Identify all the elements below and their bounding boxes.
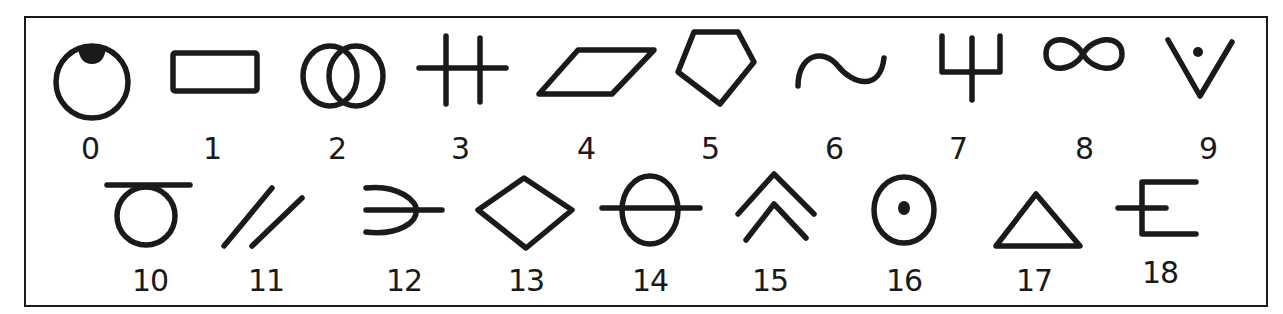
symbol-label-18: 18: [1142, 258, 1178, 288]
symbol-label-10: 10: [132, 266, 168, 296]
circle-with-top-bar-icon: [104, 180, 194, 252]
pentagon-icon: [674, 28, 762, 108]
symbol-label-5: 5: [701, 134, 719, 164]
rectangle-icon: [170, 50, 262, 96]
triangle-icon: [992, 190, 1086, 250]
double-cross-icon: [416, 32, 510, 108]
infinity-icon: [1040, 30, 1130, 80]
v-with-dot-icon: [1164, 36, 1238, 102]
symbol-label-13: 13: [508, 266, 544, 296]
symbol-label-11: 11: [248, 266, 284, 296]
double-chevron-up-icon: [734, 170, 820, 246]
open-curve-with-line-icon: [362, 184, 446, 240]
symbol-label-8: 8: [1075, 134, 1093, 164]
circle-with-center-dot-icon: [868, 172, 940, 248]
circle-filled-cap-icon: [52, 38, 136, 122]
symbol-label-15: 15: [752, 266, 788, 296]
diamond-icon: [474, 174, 578, 254]
parallelogram-icon: [536, 46, 660, 100]
symbol-label-6: 6: [825, 134, 843, 164]
symbol-label-12: 12: [386, 266, 422, 296]
symbol-label-16: 16: [886, 266, 922, 296]
trident-icon: [938, 32, 1008, 104]
e-shape-with-tail-icon: [1114, 178, 1204, 240]
symbol-label-1: 1: [203, 134, 221, 164]
symbol-label-17: 17: [1016, 266, 1052, 296]
symbol-label-7: 7: [949, 134, 967, 164]
symbol-label-3: 3: [451, 134, 469, 164]
symbol-label-0: 0: [81, 134, 99, 164]
circle-with-horizontal-line-icon: [598, 172, 704, 252]
symbol-label-9: 9: [1199, 134, 1217, 164]
symbol-label-14: 14: [632, 266, 668, 296]
symbol-label-4: 4: [577, 134, 595, 164]
wave-icon: [794, 44, 890, 94]
symbol-label-2: 2: [328, 134, 346, 164]
double-slash-icon: [220, 184, 306, 250]
interlocking-circles-icon: [300, 42, 390, 112]
